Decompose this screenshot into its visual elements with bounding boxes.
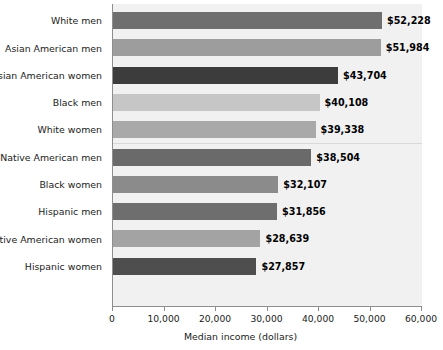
x-tick-label: 60,000 bbox=[405, 313, 437, 324]
category-label: Black women bbox=[39, 179, 102, 190]
bar-value-label: $40,108 bbox=[325, 94, 369, 111]
category-label: Asian American men bbox=[5, 43, 102, 54]
bar bbox=[113, 39, 381, 56]
category-label: Hispanic women bbox=[25, 261, 102, 272]
bar bbox=[113, 12, 382, 29]
category-axis-labels: White menAsian American menAsian America… bbox=[0, 0, 107, 306]
group-separator bbox=[113, 143, 422, 144]
category-label: Native American women bbox=[0, 234, 102, 245]
x-tick-mark bbox=[164, 306, 165, 311]
bar bbox=[113, 176, 278, 193]
bar bbox=[113, 121, 316, 138]
bar bbox=[113, 203, 277, 220]
bar bbox=[113, 67, 338, 84]
bar-value-label: $32,107 bbox=[283, 176, 327, 193]
x-tick-mark bbox=[318, 306, 319, 311]
bar-value-label: $27,857 bbox=[261, 258, 305, 275]
x-tick-label: 30,000 bbox=[250, 313, 282, 324]
bar-value-label: $52,228 bbox=[387, 12, 431, 29]
x-tick-label: 50,000 bbox=[353, 313, 385, 324]
bar-value-label: $39,338 bbox=[321, 121, 365, 138]
x-tick-mark bbox=[421, 306, 422, 311]
bar bbox=[113, 94, 320, 111]
x-tick-label: 20,000 bbox=[199, 313, 231, 324]
x-axis-title: Median income (dollars) bbox=[0, 331, 443, 342]
bar bbox=[113, 149, 311, 166]
bar-chart: White menAsian American menAsian America… bbox=[0, 0, 443, 350]
x-tick-label: 10,000 bbox=[147, 313, 179, 324]
bar-value-label: $43,704 bbox=[343, 67, 387, 84]
x-tick-mark bbox=[370, 306, 371, 311]
category-label: White women bbox=[38, 124, 103, 135]
x-tick-label: 0 bbox=[109, 313, 115, 324]
x-tick-mark bbox=[267, 306, 268, 311]
category-label: Asian American women bbox=[0, 70, 102, 81]
bar-value-label: $51,984 bbox=[386, 39, 430, 56]
x-tick-mark bbox=[215, 306, 216, 311]
bar-value-label: $31,856 bbox=[282, 203, 326, 220]
category-label: Hispanic men bbox=[38, 206, 102, 217]
category-label: Black men bbox=[53, 97, 102, 108]
category-label: White men bbox=[51, 15, 102, 26]
bar bbox=[113, 230, 260, 247]
bar-value-label: $28,639 bbox=[265, 230, 309, 247]
x-tick-mark bbox=[112, 306, 113, 311]
bar-value-label: $38,504 bbox=[316, 149, 360, 166]
x-axis-title-text: Median income (dollars) bbox=[184, 331, 297, 342]
bar bbox=[113, 258, 256, 275]
category-label: Native American men bbox=[0, 152, 102, 163]
x-tick-label: 40,000 bbox=[302, 313, 334, 324]
